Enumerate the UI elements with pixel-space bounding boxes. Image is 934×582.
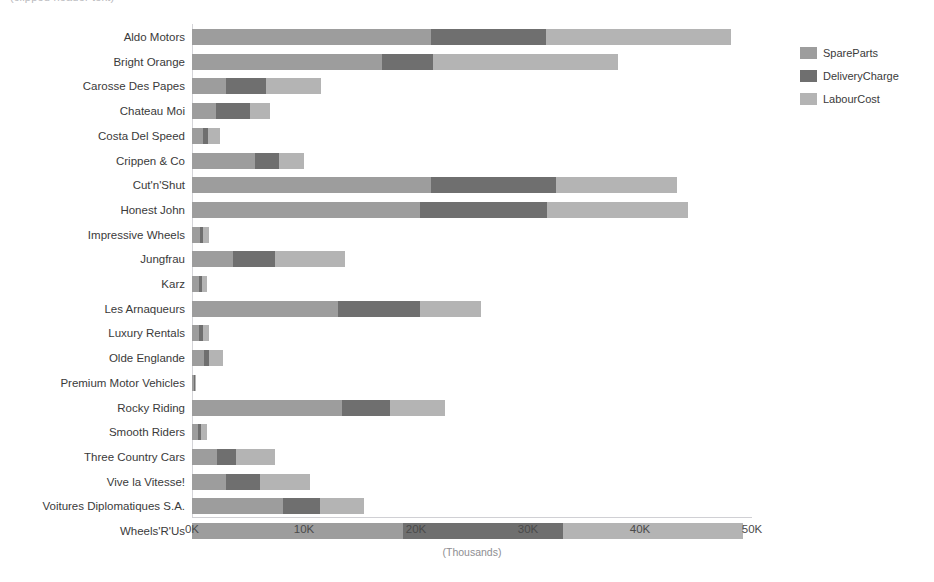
bar-segment-spareparts[interactable] bbox=[192, 400, 342, 416]
stacked-bar[interactable] bbox=[192, 54, 618, 70]
bar-row[interactable]: Vive la Vitesse! bbox=[192, 470, 752, 495]
bar-segment-labourcost[interactable] bbox=[209, 350, 224, 366]
bar-row[interactable]: Olde Englande bbox=[192, 346, 752, 371]
bar-row[interactable]: Carosse Des Papes bbox=[192, 74, 752, 99]
stacked-bar[interactable] bbox=[192, 78, 321, 94]
stacked-bar[interactable] bbox=[192, 301, 481, 317]
stacked-bar[interactable] bbox=[192, 29, 731, 45]
bar-segment-deliverycharge[interactable] bbox=[431, 177, 556, 193]
bar-segment-spareparts[interactable] bbox=[192, 276, 199, 292]
bar-segment-spareparts[interactable] bbox=[192, 498, 283, 514]
bar-segment-deliverycharge[interactable] bbox=[216, 103, 251, 119]
bar-segment-deliverycharge[interactable] bbox=[226, 78, 266, 94]
bar-segment-deliverycharge[interactable] bbox=[217, 449, 236, 465]
stacked-bar[interactable] bbox=[192, 103, 270, 119]
bar-segment-deliverycharge[interactable] bbox=[338, 301, 421, 317]
bar-segment-labourcost[interactable] bbox=[236, 449, 275, 465]
bar-row[interactable]: Honest John bbox=[192, 198, 752, 223]
bar-row[interactable]: Jungfrau bbox=[192, 247, 752, 272]
bar-segment-labourcost[interactable] bbox=[420, 301, 480, 317]
bar-segment-labourcost[interactable] bbox=[203, 325, 209, 341]
stacked-bar[interactable] bbox=[192, 325, 209, 341]
bar-segment-labourcost[interactable] bbox=[202, 276, 206, 292]
bar-segment-deliverycharge[interactable] bbox=[420, 202, 547, 218]
stacked-bar[interactable] bbox=[192, 153, 304, 169]
bar-row[interactable]: Impressive Wheels bbox=[192, 223, 752, 248]
bar-segment-labourcost[interactable] bbox=[266, 78, 321, 94]
bar-segment-labourcost[interactable] bbox=[260, 474, 309, 490]
chart-legend: SparePartsDeliveryChargeLabourCost bbox=[800, 42, 930, 111]
bar-segment-labourcost[interactable] bbox=[250, 103, 270, 119]
bar-segment-labourcost[interactable] bbox=[546, 29, 731, 45]
stacked-bar[interactable] bbox=[192, 202, 688, 218]
bar-row[interactable]: Les Arnaqueurs bbox=[192, 297, 752, 322]
bar-segment-deliverycharge[interactable] bbox=[382, 54, 432, 70]
bar-segment-deliverycharge[interactable] bbox=[226, 474, 261, 490]
bar-segment-labourcost[interactable] bbox=[547, 202, 688, 218]
bar-segment-spareparts[interactable] bbox=[192, 350, 204, 366]
stacked-bar[interactable] bbox=[192, 177, 677, 193]
bar-segment-labourcost[interactable] bbox=[320, 498, 365, 514]
clipped-header-strip: (clipped header text) bbox=[0, 0, 934, 9]
bar-row[interactable]: Smooth Riders bbox=[192, 420, 752, 445]
bar-segment-labourcost[interactable] bbox=[390, 400, 445, 416]
bar-segment-labourcost[interactable] bbox=[208, 128, 220, 144]
stacked-bar[interactable] bbox=[192, 227, 209, 243]
bar-segment-spareparts[interactable] bbox=[192, 449, 217, 465]
bar-segment-deliverycharge[interactable] bbox=[342, 400, 390, 416]
bar-row[interactable]: Rocky Riding bbox=[192, 396, 752, 421]
stacked-bar[interactable] bbox=[192, 276, 207, 292]
stacked-bar[interactable] bbox=[192, 449, 275, 465]
bar-segment-labourcost[interactable] bbox=[201, 424, 207, 440]
stacked-bar[interactable] bbox=[192, 400, 445, 416]
bar-segment-labourcost[interactable] bbox=[275, 251, 346, 267]
stacked-bar[interactable] bbox=[192, 498, 364, 514]
bar-row[interactable]: Voitures Diplomatiques S.A. bbox=[192, 494, 752, 519]
bar-row[interactable]: Cut'n'Shut bbox=[192, 173, 752, 198]
bar-segment-labourcost[interactable] bbox=[195, 375, 196, 391]
stacked-bar[interactable] bbox=[192, 424, 207, 440]
bar-segment-spareparts[interactable] bbox=[192, 251, 233, 267]
bar-row[interactable]: Luxury Rentals bbox=[192, 321, 752, 346]
bar-row[interactable]: Premium Motor Vehicles bbox=[192, 371, 752, 396]
stacked-bar[interactable] bbox=[192, 474, 310, 490]
bar-row[interactable]: Bright Orange bbox=[192, 50, 752, 75]
bar-segment-spareparts[interactable] bbox=[192, 227, 200, 243]
stacked-bar[interactable] bbox=[192, 375, 196, 391]
bar-row[interactable]: Karz bbox=[192, 272, 752, 297]
bar-segment-spareparts[interactable] bbox=[192, 29, 431, 45]
legend-labourcost[interactable]: LabourCost bbox=[800, 88, 930, 109]
bar-segment-deliverycharge[interactable] bbox=[283, 498, 320, 514]
legend-deliverycharge[interactable]: DeliveryCharge bbox=[800, 65, 930, 86]
bar-row[interactable]: Chateau Moi bbox=[192, 99, 752, 124]
stacked-bar[interactable] bbox=[192, 251, 345, 267]
bar-segment-spareparts[interactable] bbox=[192, 54, 382, 70]
bar-segment-spareparts[interactable] bbox=[192, 202, 420, 218]
bar-segment-spareparts[interactable] bbox=[192, 177, 431, 193]
bar-segment-deliverycharge[interactable] bbox=[233, 251, 274, 267]
stacked-bar[interactable] bbox=[192, 350, 223, 366]
bar-segment-labourcost[interactable] bbox=[433, 54, 618, 70]
bar-row[interactable]: Crippen & Co bbox=[192, 149, 752, 174]
chart-canvas: (clipped header text) Aldo MotorsBright … bbox=[0, 0, 934, 582]
bar-segment-spareparts[interactable] bbox=[192, 128, 203, 144]
legend-label: SpareParts bbox=[823, 47, 878, 59]
bar-segment-spareparts[interactable] bbox=[192, 301, 338, 317]
legend-swatch-icon bbox=[800, 93, 817, 105]
bar-segment-labourcost[interactable] bbox=[279, 153, 304, 169]
bar-segment-spareparts[interactable] bbox=[192, 103, 216, 119]
bar-segment-spareparts[interactable] bbox=[192, 325, 199, 341]
stacked-bar[interactable] bbox=[192, 128, 220, 144]
bar-segment-spareparts[interactable] bbox=[192, 153, 255, 169]
legend-spareparts[interactable]: SpareParts bbox=[800, 42, 930, 63]
bar-segment-deliverycharge[interactable] bbox=[255, 153, 280, 169]
bar-segment-deliverycharge[interactable] bbox=[431, 29, 546, 45]
bar-row[interactable]: Costa Del Speed bbox=[192, 124, 752, 149]
legend-label: DeliveryCharge bbox=[823, 70, 899, 82]
bar-row[interactable]: Three Country Cars bbox=[192, 445, 752, 470]
bar-segment-labourcost[interactable] bbox=[203, 227, 209, 243]
bar-segment-labourcost[interactable] bbox=[556, 177, 677, 193]
bar-row[interactable]: Aldo Motors bbox=[192, 25, 752, 50]
bar-segment-spareparts[interactable] bbox=[192, 78, 226, 94]
bar-segment-spareparts[interactable] bbox=[192, 474, 226, 490]
